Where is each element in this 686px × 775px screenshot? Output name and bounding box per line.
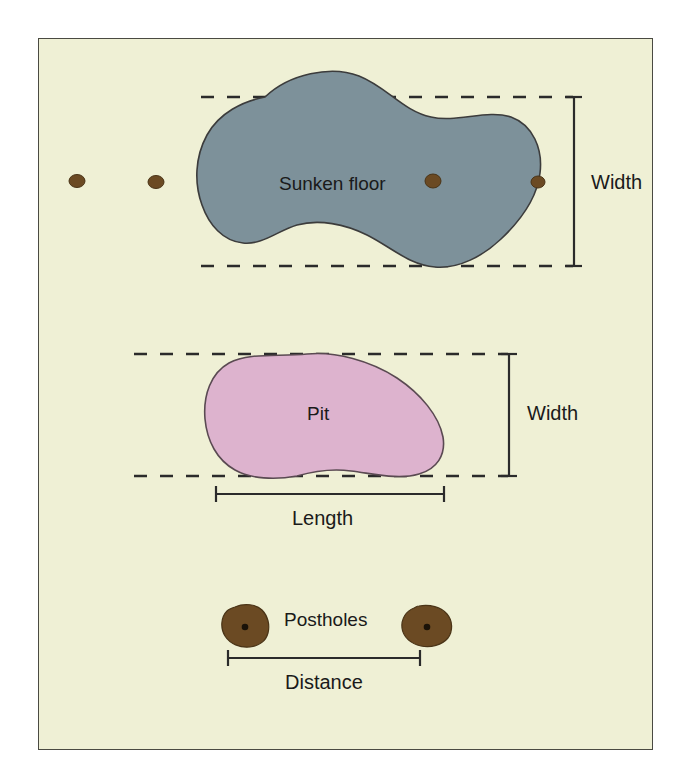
postholes-panel: Postholes Distance: [222, 605, 452, 693]
posthole-small-3: [425, 174, 441, 188]
sunken-floor-label: Sunken floor: [279, 173, 386, 194]
posthole-small-4: [531, 176, 545, 188]
sunken-floor-shape: [197, 71, 541, 267]
postholes-distance-label: Distance: [285, 671, 363, 693]
pit-panel: Pit Width Length: [134, 353, 578, 529]
diagram-canvas: Sunken floor Width: [0, 0, 686, 775]
postholes-distance-bracket: [228, 650, 420, 666]
pit-label: Pit: [307, 403, 330, 424]
sunken-floor-width-bracket: [566, 97, 582, 266]
postholes-label: Postholes: [284, 609, 367, 630]
figure-illustration: Sunken floor Width: [39, 39, 651, 748]
posthole-small-1: [69, 175, 85, 188]
figure-frame: Sunken floor Width: [38, 38, 653, 750]
posthole-left-center-dot: [242, 624, 249, 631]
sunken-floor-panel: Sunken floor Width: [69, 71, 642, 267]
posthole-small-2: [148, 176, 164, 189]
pit-width-bracket: [501, 354, 517, 476]
pit-length-bracket: [216, 486, 444, 502]
sunken-floor-width-label: Width: [591, 171, 642, 193]
pit-length-label: Length: [292, 507, 353, 529]
pit-width-label: Width: [527, 402, 578, 424]
posthole-right-center-dot: [424, 624, 431, 631]
